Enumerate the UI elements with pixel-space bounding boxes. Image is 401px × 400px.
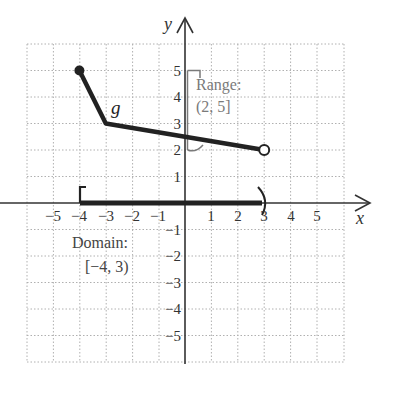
svg-text:−4: −4 bbox=[71, 208, 87, 224]
function-graph: y x g −5 −4 −3 −2 −1 1 2 3 4 5 1 2 3 4 5… bbox=[0, 0, 401, 400]
svg-text:5: 5 bbox=[174, 63, 182, 79]
svg-text:−3: −3 bbox=[165, 275, 181, 291]
svg-text:1: 1 bbox=[207, 208, 215, 224]
x-tick-labels: −5 −4 −3 −2 −1 1 2 3 4 5 bbox=[45, 208, 321, 224]
svg-text:−1: −1 bbox=[165, 222, 181, 238]
svg-text:4: 4 bbox=[287, 208, 295, 224]
svg-text:5: 5 bbox=[313, 208, 321, 224]
open-endpoint bbox=[259, 145, 269, 155]
svg-text:1: 1 bbox=[174, 169, 182, 185]
x-axis-label: x bbox=[355, 208, 364, 228]
svg-text:−4: −4 bbox=[165, 301, 181, 317]
range-left-paren bbox=[188, 145, 204, 151]
y-axis-label: y bbox=[162, 14, 172, 34]
svg-text:3: 3 bbox=[260, 208, 268, 224]
domain-title: Domain: bbox=[72, 234, 128, 251]
range-value: (2, 5] bbox=[196, 98, 231, 116]
svg-text:4: 4 bbox=[174, 89, 182, 105]
svg-text:3: 3 bbox=[174, 116, 182, 132]
svg-text:−3: −3 bbox=[98, 208, 114, 224]
svg-text:2: 2 bbox=[174, 142, 182, 158]
closed-endpoint bbox=[74, 66, 84, 76]
svg-text:−1: −1 bbox=[150, 208, 166, 224]
svg-text:−5: −5 bbox=[45, 208, 61, 224]
svg-text:−5: −5 bbox=[165, 328, 181, 344]
svg-text:−2: −2 bbox=[165, 248, 181, 264]
range-title: Range: bbox=[196, 76, 241, 94]
svg-text:−2: −2 bbox=[124, 208, 140, 224]
svg-text:2: 2 bbox=[234, 208, 242, 224]
function-label: g bbox=[111, 97, 121, 118]
domain-value: [−4, 3) bbox=[85, 258, 129, 276]
